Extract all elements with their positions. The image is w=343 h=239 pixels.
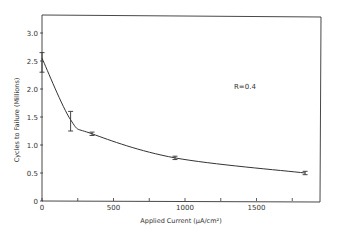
x-axis-label: Applied Current (μA/cm²) [140, 217, 221, 225]
x-tick-label: 1500 [248, 204, 266, 212]
x-tick-label: 500 [107, 204, 120, 212]
y-tick-label: 1.0 [27, 142, 38, 150]
x-tick-label: 1000 [176, 204, 194, 212]
plot-frame [42, 15, 321, 202]
y-tick-label: 3.0 [27, 30, 38, 38]
x-tick-label: 0 [40, 204, 44, 212]
y-tick-label: 2.5 [27, 58, 38, 66]
y-tick-label: 2.0 [27, 86, 38, 94]
annotation-r-value: R=0.4 [234, 83, 256, 91]
y-axis-label: Cycles to Failure (Millions) [13, 78, 21, 163]
x-axis-ticks: 050010001500 [40, 198, 292, 212]
error-bars [40, 53, 308, 175]
y-tick-label: 1.5 [27, 114, 38, 122]
y-tick-label: 0.5 [27, 170, 38, 178]
chart: 00.51.01.52.02.53.0 050010001500 R=0.4 A… [0, 0, 343, 239]
y-tick-label: 0 [34, 198, 38, 206]
y-axis-ticks: 00.51.01.52.02.53.0 [27, 30, 43, 206]
